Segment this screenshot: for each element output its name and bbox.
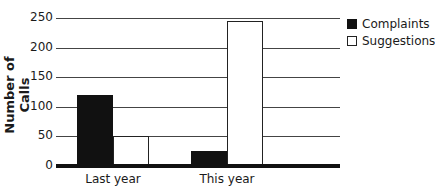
- legend-label: Complaints: [362, 17, 430, 31]
- x-axis-baseline: [56, 164, 340, 168]
- gridline: [56, 48, 340, 49]
- y-tick-label: 250: [30, 11, 53, 23]
- legend: Complaints Suggestions: [347, 15, 435, 49]
- y-tick-label: 200: [30, 41, 53, 53]
- legend-label: Suggestions: [362, 34, 435, 48]
- gridline: [56, 18, 340, 19]
- y-tick-label: 150: [30, 70, 53, 82]
- x-tick-label: This year: [177, 172, 277, 186]
- legend-item-complaints: Complaints: [347, 15, 435, 32]
- y-tick-label: 0: [45, 159, 53, 171]
- bar-suggestions-this-year: [227, 21, 263, 166]
- gridline: [56, 77, 340, 78]
- complaints-swatch-icon: [347, 19, 357, 29]
- bar-complaints-last-year: [77, 95, 113, 166]
- legend-item-suggestions: Suggestions: [347, 32, 435, 49]
- suggestions-swatch-icon: [347, 36, 357, 46]
- bar-suggestions-last-year: [113, 136, 149, 166]
- y-tick-label: 50: [38, 129, 53, 141]
- x-tick-label: Last year: [63, 172, 163, 186]
- y-axis-label: Number of Calls: [2, 40, 32, 150]
- y-tick-label: 100: [30, 100, 53, 112]
